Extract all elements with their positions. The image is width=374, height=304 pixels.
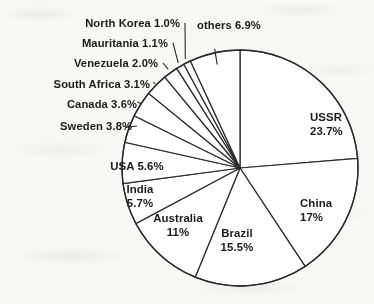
leader-line-south-africa [153,82,155,84]
leader-line-mauritania [173,43,178,63]
pie-label-venezuela: Venezuela 2.0% [74,57,158,69]
pie-label-india: India5.7% [126,183,154,209]
pie-label-others: others 6.9% [197,19,261,31]
pie-chart-svg: USSR23.7%China17%Brazil15.5%Australia11%… [0,0,374,304]
pie-label-usa: USA 5.6% [110,160,164,172]
pie-label-south-africa: South Africa 3.1% [54,78,150,90]
pie-slice-ussr[interactable] [240,50,358,168]
pie-chart-figure: USSR23.7%China17%Brazil15.5%Australia11%… [0,0,374,304]
leader-line-venezuela [163,63,168,69]
pie-label-ussr: USSR23.7% [310,111,343,137]
pie-label-canada: Canada 3.6% [67,98,137,110]
pie-label-north-korea: North Korea 1.0% [85,17,180,29]
pie-label-brazil: Brazil15.5% [221,227,254,253]
pie-label-sweden: Sweden 3.8% [60,120,132,132]
pie-label-mauritania: Mauritania 1.1% [82,37,168,49]
